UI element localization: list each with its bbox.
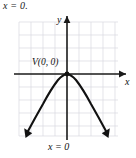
y-axis-label: y bbox=[57, 14, 61, 25]
plot-area bbox=[0, 14, 136, 144]
top-equation-text: x = 0. bbox=[3, 0, 28, 11]
axis-of-symmetry-label: x = 0 bbox=[48, 141, 69, 152]
vertex-label: V(0, 0) bbox=[32, 57, 58, 67]
parabola-figure: x = 0. bbox=[0, 0, 136, 158]
vertex-point bbox=[65, 72, 70, 77]
x-axis-label: x bbox=[125, 76, 129, 87]
y-axis bbox=[64, 16, 71, 140]
